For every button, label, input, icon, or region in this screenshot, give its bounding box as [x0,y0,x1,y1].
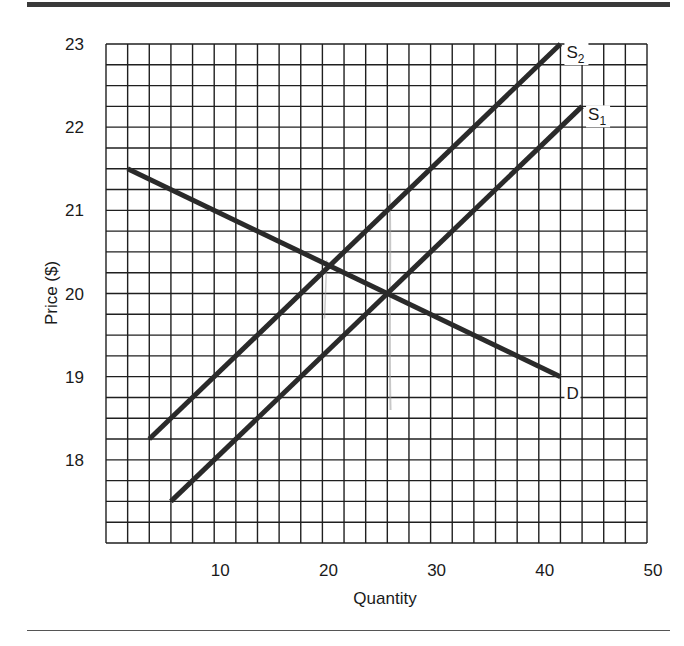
y-tick-label: 18 [65,451,84,470]
x-tick-label: 30 [427,561,446,580]
y-tick-label: 22 [65,118,84,137]
supply-demand-chart: DS1S2 1020304050181920212223 Quantity Pr… [0,0,684,646]
y-tick-label: 20 [65,285,84,304]
curve-label-d: D [566,384,578,403]
y-tick-label: 21 [65,201,84,220]
x-tick-label: 50 [644,561,663,580]
x-axis-title: Quantity [353,589,417,608]
curve-s1 [171,106,582,501]
x-tick-label: 40 [535,561,554,580]
x-tick-label: 10 [211,561,230,580]
curve-s2 [149,44,560,439]
y-tick-label: 23 [65,35,84,54]
y-axis-title: Price ($) [42,261,61,325]
bottom-rule [27,630,670,631]
y-tick-label: 19 [65,368,84,387]
pencil-mark [389,194,390,410]
x-tick-label: 20 [319,561,338,580]
